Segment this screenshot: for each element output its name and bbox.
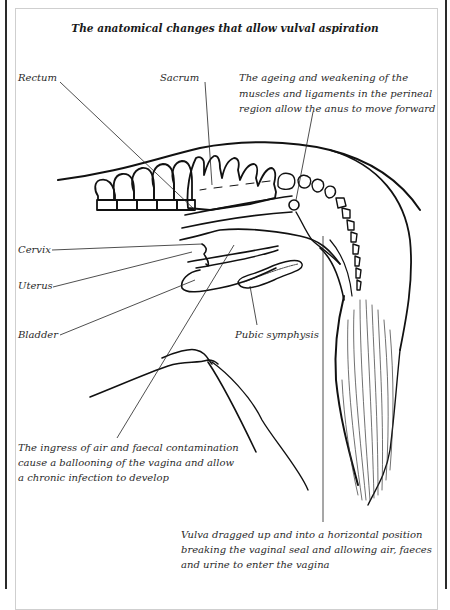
sacrum (187, 156, 276, 210)
label-sacrum: Sacrum (160, 70, 199, 85)
annotation-anus-line-1: The ageing and weakening of the (239, 70, 408, 85)
annotation-vulva-line-1: Vulva dragged up and into a horizontal p… (181, 527, 422, 542)
lumbar-vertebrae (95, 161, 195, 210)
leg-front-outline (90, 360, 218, 397)
label-bladder: Bladder (18, 327, 58, 342)
annotation-ingress-line-3: a chronic infection to develop (18, 470, 169, 485)
tail-outline-left (335, 296, 358, 485)
annotation-vulva-line-2: breaking the vaginal seal and allowing a… (181, 542, 432, 557)
anus (289, 200, 299, 210)
leader-rectum (60, 82, 195, 210)
tail-outline-right (368, 350, 400, 505)
pubic-symphysis (238, 261, 302, 288)
coccygeal-vertebrae (278, 173, 361, 290)
annotation-ingress-line-2: cause a ballooning of the vagina and all… (18, 455, 234, 470)
label-cervix: Cervix (18, 242, 51, 257)
leader-cervix (52, 244, 202, 250)
label-rectum: Rectum (18, 70, 57, 85)
leader-ingress (117, 245, 234, 438)
label-uterus: Uterus (18, 278, 53, 293)
annotation-anus-line-3: region allow the anus to move forward (239, 101, 435, 116)
annotation-ingress-line-1: The ingress of air and faecal contaminat… (18, 440, 239, 455)
cervix-outline (202, 244, 209, 266)
annotation-vulva-line-3: and urine to enter the vagina (181, 557, 330, 572)
rectum-lower (182, 212, 292, 228)
leg-rear-outer (212, 362, 308, 490)
leader-pubic (250, 286, 257, 325)
leader-anus (296, 112, 313, 200)
leg-rear-inner (208, 362, 256, 452)
leader-bladder (60, 280, 195, 335)
tail-outer-curve (330, 150, 411, 350)
annotation-anus-line-2: muscles and ligaments in the perineal (239, 86, 432, 101)
rectum-upper (185, 196, 292, 215)
leader-uterus (53, 252, 192, 287)
label-pubic-symphysis: Pubic symphysis (235, 327, 319, 342)
bladder-outline (182, 268, 276, 292)
